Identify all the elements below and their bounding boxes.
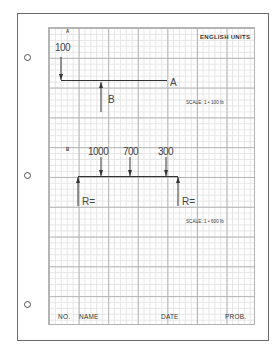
problem-b-right-reaction-label: R= — [182, 197, 195, 207]
binder-hole-middle — [24, 172, 31, 179]
problem-a-scale: SCALE: 1 • 100 lb — [186, 101, 224, 106]
problem-b-label: B — [66, 148, 69, 153]
footer-prob-label: PROB. — [225, 314, 246, 321]
units-header: ENGLISH UNITS — [200, 34, 250, 40]
footer-name-label: NAME — [79, 314, 99, 321]
graph-paper-grid — [48, 27, 255, 325]
footer-no-label: NO. — [58, 314, 70, 321]
footer-date-label: DATE — [161, 314, 179, 321]
problem-b-left-reaction-label: R= — [82, 197, 95, 207]
binder-hole-top — [24, 54, 31, 61]
binder-hole-bottom — [24, 301, 31, 308]
problem-b-load-1: 1000 — [88, 147, 108, 157]
problem-a-label: A — [66, 30, 69, 35]
problem-a-beam-end-label: A — [170, 78, 177, 88]
problem-b-scale: SCALE: 1 • 600 lb — [186, 220, 224, 225]
problem-a-reaction-label: B — [108, 95, 115, 105]
problem-b-load-2: 700 — [123, 147, 138, 157]
problem-a-load-value: 100 — [55, 43, 70, 53]
problem-b-load-3: 300 — [158, 147, 173, 157]
